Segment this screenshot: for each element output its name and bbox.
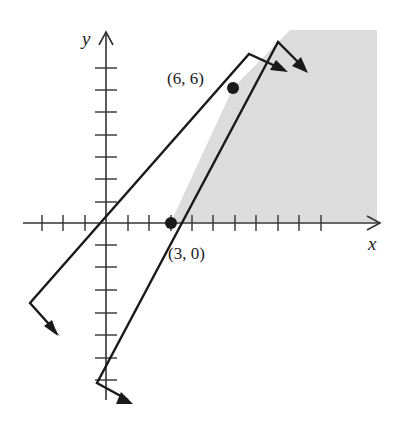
point-label-3-0: (3, 0)	[168, 244, 205, 263]
x-axis-label: x	[367, 233, 377, 254]
point-label-6-6: (6, 6)	[167, 69, 204, 88]
shaded-region	[171, 30, 377, 222]
y-axis-label: y	[80, 28, 91, 49]
point-6-6	[227, 82, 239, 94]
graph-canvas: y x (6, 6) (3, 0)	[0, 0, 402, 428]
point-3-0	[165, 217, 177, 229]
